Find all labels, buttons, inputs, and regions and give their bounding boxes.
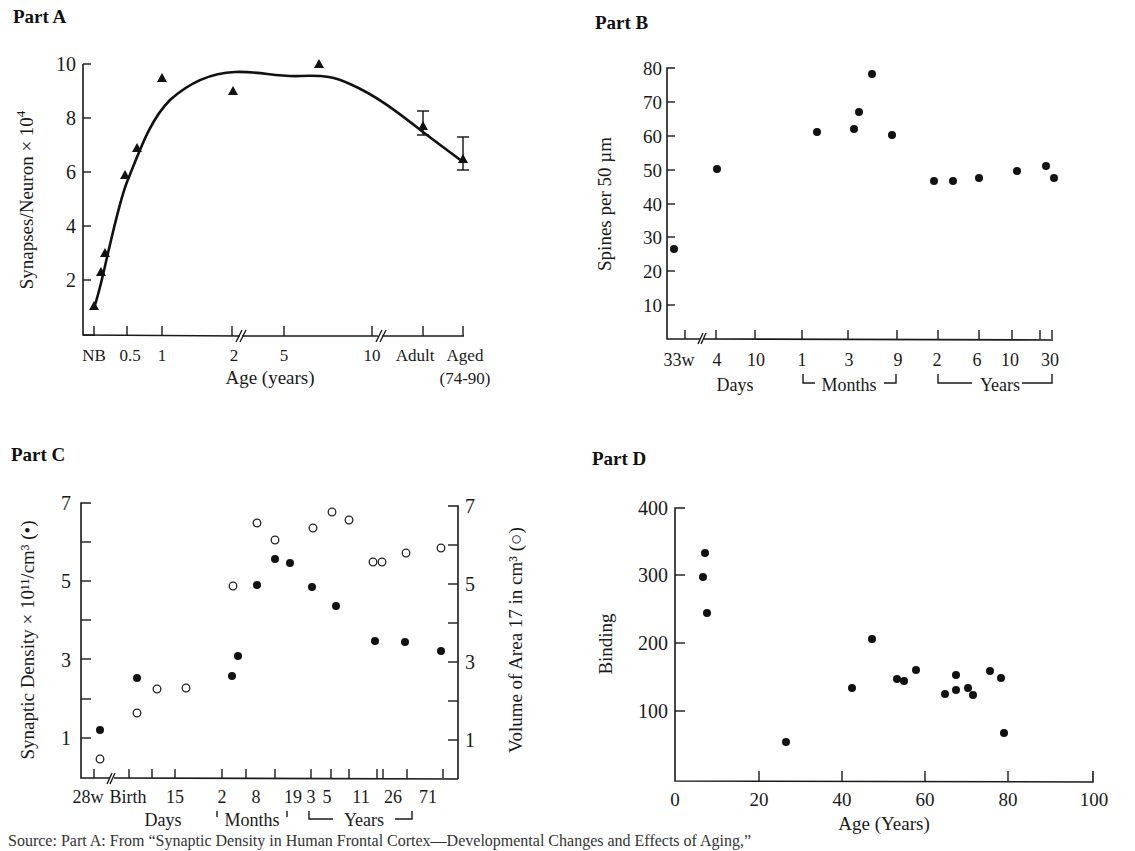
chart-part-d: 400 300 200 100 0 20 40 60 80 100 Age (Y… [595,497,1108,835]
part-c-right-axis [448,506,458,779]
part-b-xtick: 30 [1041,350,1059,370]
part-c-group-days: Days [145,810,182,830]
part-b-ytick: 30 [643,227,662,248]
part-d-ytick: 200 [638,632,668,654]
part-b-y-label: Spines per 50 µm [594,137,615,271]
part-b-xtick: 3 [845,350,854,370]
part-a-xtick: Aged [447,346,484,365]
part-d-ytick: 400 [638,497,668,519]
part-a-ytick: 2 [66,269,76,291]
part-a-xtick: 10 [364,346,381,365]
part-a-xtick: 2 [230,346,239,365]
part-d-xtick: 60 [916,789,935,810]
part-c-xtick: 2 [218,787,227,807]
part-d-xtick: 20 [750,789,769,810]
part-b-xtick: 9 [894,350,903,370]
part-c-y-label-left: Synaptic Density × 10¹¹/cm³ (•) [17,520,39,759]
part-d-xtick: 80 [999,789,1018,810]
part-c-xtick: 19 [284,787,302,807]
part-c-ytick-right: 1 [465,729,475,751]
part-a-xtick: 0.5 [119,346,140,365]
part-d-y-label: Binding [595,613,616,675]
part-b-xtick: 10 [747,350,765,370]
part-c-xtick: 71 [419,787,437,807]
part-b-xtick: 4 [713,350,722,370]
part-b-xtick: 1 [798,350,807,370]
part-c-group-months: Months [224,810,279,830]
part-d-xtick: 40 [833,789,852,810]
part-c-ytick-left: 7 [61,492,71,514]
part-d-x-label: Age (Years) [838,813,929,835]
chart-part-c: 7 5 3 1 7 5 3 1 28w Birth 15 2 8 19 3 5 … [17,492,527,830]
part-b-ytick: 80 [643,58,662,79]
part-b-xtick: 6 [973,350,982,370]
part-a-fit-curve [94,72,463,308]
part-b-x-axis [704,339,1053,340]
part-a-xtick-sub: (74-90) [440,369,491,388]
part-a-ytick: 8 [66,107,76,129]
part-a-points [89,59,468,310]
part-b-xtick: 33w [664,350,695,370]
part-c-xtick: 15 [166,787,184,807]
part-b-ytick: 20 [643,261,662,282]
part-d-ytick: 100 [638,700,668,722]
part-a-y-label: Synapses/Neuron × 104 [13,110,37,289]
part-b-ytick: 10 [643,295,662,316]
part-c-xtick: 5 [323,787,332,807]
part-b-points [670,70,1058,253]
part-c-xtick: 11 [352,787,369,807]
part-a-x-label: Age (years) [225,367,314,389]
part-c-ytick-right: 7 [465,495,475,517]
figure-canvas: 10 8 6 4 2 NB 0.5 1 2 5 10 Adult Aged (7… [0,0,1135,851]
part-b-ytick: 40 [643,194,662,215]
part-b-ytick: 70 [643,92,662,113]
part-c-xtick: 3 [307,787,316,807]
part-c-points-open [96,508,445,763]
part-c-ytick-left: 5 [61,570,71,592]
part-b-xtick: 2 [933,350,942,370]
part-c-ytick-right: 3 [465,651,475,673]
part-b-xtick: 10 [1001,350,1019,370]
part-c-x-axis [114,778,458,779]
part-c-xtick: 8 [252,787,261,807]
part-a-ytick: 6 [66,161,76,183]
part-c-left-axis [81,503,110,778]
part-b-ytick: 50 [643,160,662,181]
part-d-xtick: 0 [670,789,680,810]
part-a-ytick: 10 [56,53,76,75]
part-c-y-label-right: Volume of Area 17 in cm³ (○) [505,527,527,753]
part-c-group-years: Years [344,810,384,830]
part-b-group-months: Months [821,375,876,395]
part-c-xtick: Birth [109,787,146,807]
part-a-xtick: Adult [396,346,435,365]
part-d-ytick: 300 [638,564,668,586]
part-a-xtick: 1 [158,346,167,365]
part-c-xtick: 28w [73,787,104,807]
part-c-xtick: 26 [384,787,402,807]
part-b-group-days: Days [717,375,754,395]
part-a-xtick: NB [82,346,106,365]
chart-part-b: 80 70 60 50 40 30 20 10 33w 4 10 1 3 9 2… [594,58,1059,395]
part-b-ytick: 60 [643,126,662,147]
part-b-group-years: Years [980,375,1020,395]
part-a-y-axis [83,64,95,335]
part-d-axes [675,508,1093,782]
part-c-ytick-right: 5 [465,573,475,595]
source-caption: Source: Part A: From “Synaptic Density i… [8,832,751,850]
part-d-xtick: 100 [1080,789,1109,810]
part-a-ytick: 4 [66,215,76,237]
part-d-points [699,549,1008,746]
part-c-ytick-left: 3 [61,649,71,671]
part-c-ytick-left: 1 [61,727,71,749]
part-a-xtick: 5 [280,346,289,365]
chart-part-a: 10 8 6 4 2 NB 0.5 1 2 5 10 Adult Aged (7… [13,53,490,389]
part-c-points-filled [96,555,445,734]
